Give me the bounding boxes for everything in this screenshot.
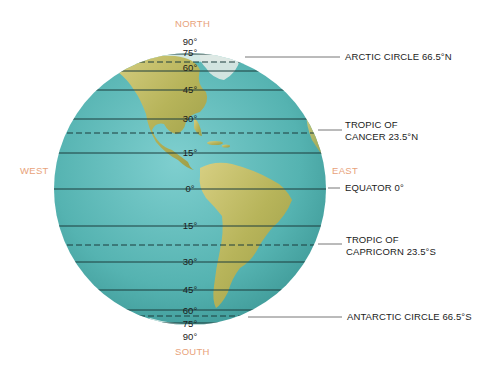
west-label: WEST bbox=[20, 165, 49, 176]
south-label: SOUTH bbox=[175, 346, 210, 357]
north-label: NORTH bbox=[175, 18, 210, 29]
lat-15s-label: 15° bbox=[183, 220, 197, 231]
tropic-of-cancer-line1: TROPIC OF bbox=[345, 119, 418, 131]
lat-90n-label: 90° bbox=[183, 36, 197, 47]
lat-60s-label: 60° bbox=[183, 305, 197, 316]
lat-30n-label: 30° bbox=[183, 113, 197, 124]
tropic-of-capricorn-label: TROPIC OF CAPRICORN 23.5°S bbox=[346, 234, 436, 257]
tropic-of-capricorn-line1: TROPIC OF bbox=[346, 234, 436, 246]
lat-45s-label: 45° bbox=[183, 284, 197, 295]
tropic-of-cancer-line2: CANCER 23.5°N bbox=[345, 131, 418, 143]
lat-75s-label: 75° bbox=[183, 318, 197, 329]
arctic-circle-label: ARCTIC CIRCLE 66.5°N bbox=[345, 51, 452, 63]
tropic-of-capricorn-line2: CAPRICORN 23.5°S bbox=[346, 246, 436, 258]
equator-label: EQUATOR 0° bbox=[345, 182, 404, 194]
antarctic-circle-label: ANTARCTIC CIRCLE 66.5°S bbox=[347, 311, 472, 323]
east-label: EAST bbox=[332, 165, 358, 176]
tropic-of-cancer-label: TROPIC OF CANCER 23.5°N bbox=[345, 119, 418, 142]
lat-75n-label: 75° bbox=[183, 47, 197, 58]
lat-45n-label: 45° bbox=[183, 84, 197, 95]
lat-15n-label: 15° bbox=[183, 147, 197, 158]
lat-0-label: 0° bbox=[185, 183, 194, 194]
lat-30s-label: 30° bbox=[183, 256, 197, 267]
lat-60n-label: 60° bbox=[183, 62, 197, 73]
latitude-globe-diagram: NORTH SOUTH WEST EAST 90° 75° 60° 45° 30… bbox=[0, 0, 481, 373]
lat-90s-label: 90° bbox=[183, 331, 197, 342]
